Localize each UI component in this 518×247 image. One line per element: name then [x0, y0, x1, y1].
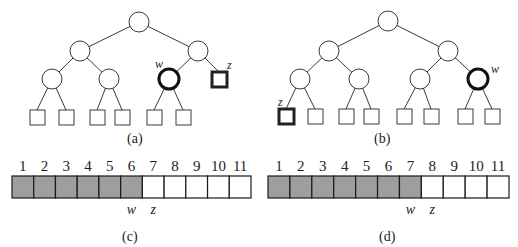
leaf [176, 110, 191, 125]
tree-a: w z (a) [30, 12, 232, 147]
leaf [364, 109, 379, 124]
array-cell-empty [186, 176, 208, 198]
tree-node [70, 41, 90, 61]
array-cell-filled [356, 176, 378, 198]
tree-node [188, 41, 208, 61]
tree-node [410, 69, 430, 89]
array-index-label: 9 [450, 158, 458, 174]
array-cell-filled [12, 176, 34, 198]
array-cell-filled [77, 176, 99, 198]
array-cell-empty [443, 176, 465, 198]
array-index-label: 10 [469, 158, 484, 174]
array-index-label: 2 [297, 158, 305, 174]
array-index-label: 4 [341, 158, 349, 174]
label-z: z [277, 95, 283, 109]
array-index-label: 7 [149, 158, 157, 174]
tree-node [290, 69, 310, 89]
array-c: 1234567891011wz [12, 158, 251, 217]
leaf [339, 109, 354, 124]
array-index-label: 8 [171, 158, 179, 174]
array-index-label: 6 [128, 158, 136, 174]
array-index-label: 5 [106, 158, 114, 174]
leaf [308, 109, 323, 124]
array-index-label: 1 [275, 158, 283, 174]
array-cell-empty [208, 176, 230, 198]
array-cell-empty [142, 176, 164, 198]
leaf [115, 110, 130, 125]
array-index-label: 3 [319, 158, 327, 174]
array-cell-filled [34, 176, 56, 198]
array-cell-empty [164, 176, 186, 198]
array-d: 1234567891011wz [268, 158, 509, 217]
tree-node [42, 69, 62, 89]
tree-node-root [129, 12, 149, 32]
tree-node-w [159, 69, 179, 89]
array-index-label: 5 [363, 158, 371, 174]
tree-b: w z (b) [277, 11, 500, 147]
leaf [424, 109, 439, 124]
leaf [90, 110, 105, 125]
leaf [458, 109, 473, 124]
label-z: z [226, 58, 232, 72]
tree-node-root [378, 11, 398, 31]
leaf [59, 110, 74, 125]
tree-node-w [468, 69, 488, 89]
array-cell-filled [334, 176, 356, 198]
array-cell-filled [55, 176, 77, 198]
leaf-z [279, 109, 294, 124]
array-cell-empty [421, 176, 443, 198]
array-cell-empty [465, 176, 487, 198]
leaf [397, 109, 412, 124]
array-cell-filled [399, 176, 421, 198]
array-index-label: 11 [491, 158, 505, 174]
array-cell-empty [487, 176, 509, 198]
array-label-w: w [127, 202, 137, 217]
array-index-label: 11 [233, 158, 247, 174]
label-w: w [155, 57, 163, 71]
array-index-label: 4 [84, 158, 92, 174]
leaf [30, 110, 45, 125]
caption-c: (c) [122, 229, 138, 245]
array-cell-filled [121, 176, 143, 198]
array-label-w: w [406, 202, 416, 217]
array-cell-filled [312, 176, 334, 198]
leaf-z [212, 72, 227, 87]
caption-b: (b) [374, 131, 391, 147]
array-cell-filled [99, 176, 121, 198]
array-cell-filled [290, 176, 312, 198]
caption-d: (d) [379, 229, 396, 245]
array-cell-filled [268, 176, 290, 198]
array-index-label: 2 [41, 158, 49, 174]
array-index-label: 9 [193, 158, 201, 174]
figure: w z (a) w z (b) [0, 0, 518, 247]
tree-node [319, 41, 339, 61]
caption-a: (a) [127, 131, 143, 147]
array-index-label: 8 [429, 158, 437, 174]
leaf [147, 110, 162, 125]
tree-node [438, 41, 458, 61]
array-label-z: z [150, 202, 157, 217]
array-label-z: z [429, 202, 436, 217]
array-cell-empty [229, 176, 251, 198]
array-cell-filled [378, 176, 400, 198]
tree-node [99, 69, 119, 89]
array-index-label: 6 [385, 158, 393, 174]
array-index-label: 3 [63, 158, 71, 174]
array-index-label: 7 [407, 158, 415, 174]
label-w: w [491, 62, 499, 76]
leaf [485, 109, 500, 124]
array-index-label: 10 [211, 158, 226, 174]
tree-node [349, 69, 369, 89]
array-index-label: 1 [19, 158, 27, 174]
